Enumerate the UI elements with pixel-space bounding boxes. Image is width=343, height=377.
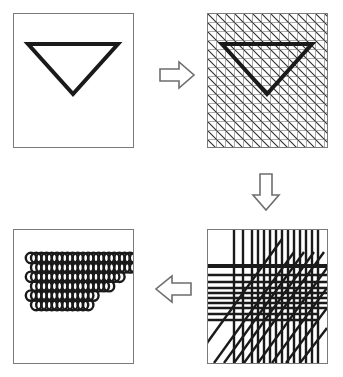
panel-triangle-outline (13, 13, 134, 148)
figure-root (0, 0, 343, 377)
panel-dot-triangle (13, 229, 134, 364)
arrow-down-icon (249, 171, 283, 213)
fine-grid-pattern (208, 14, 327, 147)
line-pattern-canvas (208, 230, 327, 363)
panel-line-sampling (207, 229, 328, 364)
triangle-shape (28, 44, 118, 94)
grid-canvas (208, 14, 327, 147)
arrow-right-glyph (157, 58, 197, 92)
arrow-left-icon (152, 272, 194, 306)
arrow-down-glyph (249, 171, 283, 213)
arrow-left-glyph (152, 272, 194, 306)
dot-lattice-canvas (14, 230, 133, 363)
panel-triangle-on-grid (207, 13, 328, 148)
arrow-right-icon (157, 58, 197, 92)
triangle-outline-canvas (14, 14, 133, 147)
